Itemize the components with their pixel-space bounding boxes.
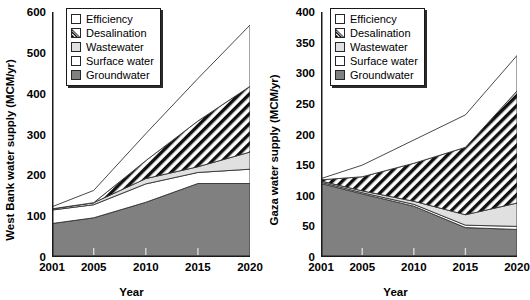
x-tick-2015: 2015 bbox=[453, 261, 479, 273]
y-tick-100: 100 bbox=[296, 190, 315, 202]
wastewater-swatch-icon bbox=[71, 42, 81, 52]
legend-label-efficiency: Efficiency bbox=[350, 14, 397, 25]
legend-label-efficiency: Efficiency bbox=[86, 14, 133, 25]
x-tick-2010: 2010 bbox=[401, 261, 427, 273]
x-axis-ticks-gaza: 2001 2005 2010 2015 2020 bbox=[321, 259, 517, 275]
legend-item-wastewater[interactable]: Wastewater bbox=[335, 40, 418, 54]
wastewater-swatch-icon bbox=[335, 42, 345, 52]
groundwater-swatch-icon bbox=[335, 70, 345, 80]
x-axis-label-gaza: Year bbox=[264, 286, 527, 298]
legend-item-efficiency[interactable]: Efficiency bbox=[71, 12, 154, 26]
legend-item-groundwater[interactable]: Groundwater bbox=[71, 68, 154, 82]
legend-item-wastewater[interactable]: Wastewater bbox=[71, 40, 154, 54]
legend-label-groundwater: Groundwater bbox=[86, 70, 150, 81]
x-tick-2001: 2001 bbox=[308, 261, 334, 273]
legend-label-surface-water: Surface water bbox=[86, 56, 154, 67]
legend-item-desalination[interactable]: Desalination bbox=[71, 26, 154, 40]
legend-item-efficiency[interactable]: Efficiency bbox=[335, 12, 418, 26]
legend-item-surface-water[interactable]: Surface water bbox=[335, 54, 418, 68]
legend-label-surface-water: Surface water bbox=[350, 56, 418, 67]
y-tick-50: 50 bbox=[302, 220, 315, 232]
x-tick-2001: 2001 bbox=[39, 261, 65, 273]
y-tick-400: 400 bbox=[27, 88, 46, 100]
efficiency-swatch-icon bbox=[335, 14, 345, 24]
x-tick-2020: 2020 bbox=[237, 261, 263, 273]
efficiency-swatch-icon bbox=[71, 14, 81, 24]
x-tick-2020: 2020 bbox=[504, 261, 530, 273]
y-tick-200: 200 bbox=[27, 169, 46, 181]
surface-water-swatch-icon bbox=[71, 56, 81, 66]
legend-item-groundwater[interactable]: Groundwater bbox=[335, 68, 418, 82]
y-axis-ticks-west-bank: 600 500 400 300 200 100 0 bbox=[0, 12, 46, 257]
desalination-swatch-icon bbox=[71, 28, 81, 38]
y-tick-150: 150 bbox=[296, 159, 315, 171]
y-tick-500: 500 bbox=[27, 47, 46, 59]
x-tick-2005: 2005 bbox=[349, 261, 375, 273]
x-tick-2015: 2015 bbox=[185, 261, 211, 273]
legend-label-wastewater: Wastewater bbox=[350, 42, 408, 53]
surface-water-swatch-icon bbox=[335, 56, 345, 66]
legend-gaza: Efficiency Desalination Wastewater bbox=[330, 8, 425, 86]
y-axis-ticks-gaza: 400 350 300 250 200 150 100 50 0 bbox=[264, 12, 315, 257]
x-tick-2005: 2005 bbox=[81, 261, 107, 273]
y-tick-200: 200 bbox=[296, 129, 315, 141]
x-axis-ticks-west-bank: 2001 2005 2010 2015 2020 bbox=[52, 259, 250, 275]
y-tick-400: 400 bbox=[296, 6, 315, 18]
y-tick-100: 100 bbox=[27, 210, 46, 222]
legend-label-desalination: Desalination bbox=[86, 28, 147, 39]
y-tick-300: 300 bbox=[296, 67, 315, 79]
legend-west-bank: Efficiency Desalination Wastewater bbox=[66, 8, 161, 86]
legend-label-groundwater: Groundwater bbox=[350, 70, 414, 81]
chart-panel-west-bank: West Bank water supply (MCM/yr) 600 500 … bbox=[0, 0, 263, 300]
legend-item-desalination[interactable]: Desalination bbox=[335, 26, 418, 40]
legend-item-surface-water[interactable]: Surface water bbox=[71, 54, 154, 68]
groundwater-swatch-icon bbox=[71, 70, 81, 80]
x-axis-label-west-bank: Year bbox=[0, 286, 263, 298]
desalination-swatch-icon bbox=[335, 28, 345, 38]
y-tick-250: 250 bbox=[296, 98, 315, 110]
y-tick-350: 350 bbox=[296, 37, 315, 49]
legend-label-wastewater: Wastewater bbox=[86, 42, 144, 53]
chart-panel-gaza: Gaza water supply (MCM/yr) 400 350 300 2… bbox=[264, 0, 527, 300]
legend-label-desalination: Desalination bbox=[350, 28, 411, 39]
y-tick-300: 300 bbox=[27, 129, 46, 141]
y-tick-600: 600 bbox=[27, 6, 46, 18]
x-tick-2010: 2010 bbox=[133, 261, 159, 273]
